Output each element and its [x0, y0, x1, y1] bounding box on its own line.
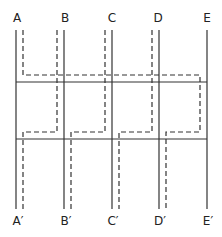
label-b-prime: B′ [61, 214, 72, 228]
label-a-prime: A′ [13, 214, 24, 228]
dashed-path-d-to-c-prime [119, 30, 152, 209]
label-e: E [203, 11, 211, 25]
label-d-prime: D′ [154, 214, 166, 228]
label-a: A [13, 11, 22, 25]
wiring-diagram: A B C D E A′ B′ C′ D′ E′ [0, 0, 222, 237]
label-e-prime: E′ [203, 214, 214, 228]
label-d: D [153, 11, 162, 25]
dashed-path-c-to-b-prime [71, 30, 105, 209]
label-c: C [108, 11, 116, 25]
dashed-path-b-to-a-prime [23, 30, 57, 209]
label-b: B [61, 11, 69, 25]
label-c-prime: C′ [107, 214, 118, 228]
